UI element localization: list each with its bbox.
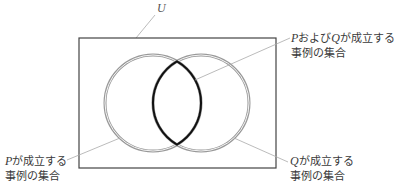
set-p-label: Pが成立する 事例の集合 — [5, 154, 67, 184]
intersection-label: PおよびQが成立する 事例の集合 — [291, 31, 395, 61]
intersection-label-tail: が成立する — [340, 32, 395, 45]
universe-label: U — [157, 1, 166, 16]
set-q-label-tail: が成立する — [299, 155, 354, 168]
intersection-label-line2: 事例の集合 — [291, 46, 395, 61]
set-p-label-tail: が成立する — [12, 155, 67, 168]
set-q-label-line2: 事例の集合 — [290, 169, 354, 184]
set-p-label-line2: 事例の集合 — [5, 169, 67, 184]
set-q-label: Qが成立する 事例の集合 — [290, 154, 354, 184]
universe-leader-line — [136, 15, 155, 38]
intersection-label-var-q: Q — [331, 31, 340, 45]
intersection-region — [153, 61, 201, 144]
set-p-leader-line — [67, 138, 120, 160]
intersection-label-mid: および — [298, 32, 331, 45]
set-q-leader-line — [234, 138, 288, 162]
set-q-label-var: Q — [290, 154, 299, 168]
